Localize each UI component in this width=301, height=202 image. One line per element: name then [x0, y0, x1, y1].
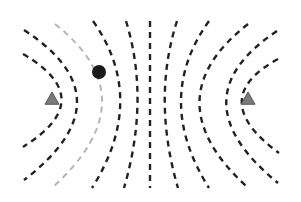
right-triangle-icon: [241, 92, 255, 104]
curve-right-5: [165, 21, 178, 188]
curve-left-4: [92, 21, 120, 188]
curve-left-5: [124, 21, 138, 188]
diagram-canvas: [0, 0, 301, 202]
curve-right-3: [199, 24, 248, 186]
curve-right-outer: [242, 59, 279, 153]
curve-right-4: [181, 21, 209, 188]
point-icon: [92, 65, 106, 79]
left-triangle-icon: [45, 92, 59, 104]
field-diagram: [0, 0, 301, 202]
curve-left-2: [24, 30, 77, 180]
curve-right-2: [226, 31, 278, 183]
points: [92, 65, 106, 79]
